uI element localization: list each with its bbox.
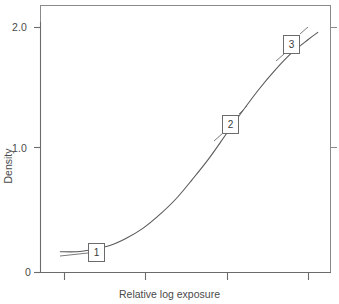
characteristic-curve-line xyxy=(60,32,317,251)
curve-annotation-straight-line: 2 xyxy=(222,115,239,134)
curve-annotation-toe: 1 xyxy=(88,243,105,262)
y-axis-tick-label-2: 2.0 xyxy=(12,21,27,33)
y-axis-tick-label-0: 0 xyxy=(25,266,31,278)
leader-line-3b xyxy=(300,27,308,34)
x-axis-title: Relative log exposure xyxy=(0,288,339,300)
y-axis-title: Density xyxy=(2,136,14,196)
leader-line-3 xyxy=(276,54,284,61)
curve-annotation-shoulder: 3 xyxy=(283,35,300,54)
leader-line-2b xyxy=(239,106,247,114)
chart-figure: 2.0 1.0 0 Density Relative log exposure … xyxy=(0,0,339,304)
leader-line-1 xyxy=(60,253,88,256)
y-axis-tick-label-1: 1.0 xyxy=(12,142,27,154)
